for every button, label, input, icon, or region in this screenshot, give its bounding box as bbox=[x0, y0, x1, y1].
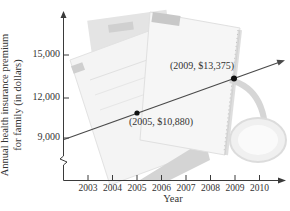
data-point-2005 bbox=[134, 110, 139, 115]
plot-area bbox=[0, 0, 290, 211]
y-tick-label: 12,000 bbox=[33, 91, 61, 102]
y-axis-label: Annual health insurance premium for fami… bbox=[0, 30, 28, 180]
data-point-2009 bbox=[231, 76, 237, 82]
line-arrow-icon bbox=[277, 60, 286, 66]
y-tick-label: 15,000 bbox=[33, 48, 61, 59]
x-axis-label: Year bbox=[158, 193, 188, 204]
y-axis-arrow-icon bbox=[61, 11, 67, 18]
x-tick-label: 2010 bbox=[245, 183, 275, 193]
y-axis-label-line-1: Annual health insurance premium bbox=[0, 30, 11, 180]
trend-line bbox=[64, 60, 285, 140]
point-label-2005: (2005, $10,880) bbox=[129, 116, 193, 127]
y-axis-label-line-2: for family (in dollars) bbox=[11, 30, 24, 180]
point-label-2009: (2009, $13,375) bbox=[170, 60, 234, 71]
y-tick-label: 9,000 bbox=[38, 131, 61, 142]
chart: Annual health insurance premium for fami… bbox=[0, 0, 290, 211]
y-axis bbox=[60, 11, 69, 181]
x-axis-arrow-icon bbox=[278, 178, 286, 184]
